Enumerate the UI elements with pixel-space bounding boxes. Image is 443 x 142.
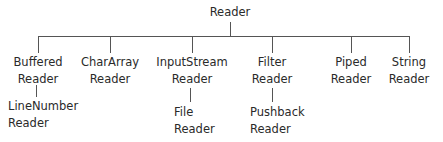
edge-inputstream: [192, 36, 193, 53]
root-stem: [230, 22, 231, 36]
node-label-line1: Piped: [331, 54, 372, 71]
node-label-line2: Reader: [81, 71, 139, 88]
node-label-line1: LineNumber: [8, 98, 78, 115]
node-filter-reader: Filter Reader: [252, 54, 293, 88]
edge-linenumber: [36, 85, 37, 97]
node-label-line1: Filter: [252, 54, 293, 71]
edge-file: [190, 88, 191, 102]
node-label-line2: Reader: [389, 71, 430, 88]
edge-chararray: [110, 36, 111, 53]
edge-piped: [351, 36, 352, 53]
node-label: Reader: [210, 4, 251, 21]
node-label-line1: CharArray: [81, 54, 139, 71]
node-label-line2: Reader: [331, 71, 372, 88]
node-label-line1: Buffered: [13, 54, 62, 71]
node-string-reader: String Reader: [389, 54, 430, 88]
node-inputstream-reader: InputStream Reader: [156, 54, 227, 88]
node-label-line2: Reader: [250, 121, 305, 138]
edge-buffered: [38, 36, 39, 53]
node-label-line2: Reader: [174, 121, 215, 138]
edge-pushback: [272, 88, 273, 102]
node-label-line2: Reader: [13, 71, 62, 88]
node-buffered-reader: Buffered Reader: [13, 54, 62, 88]
node-chararray-reader: CharArray Reader: [81, 54, 139, 88]
edge-filter: [272, 36, 273, 53]
node-label-line1: String: [389, 54, 430, 71]
node-label-line1: File: [174, 104, 215, 121]
node-reader: Reader: [210, 4, 251, 21]
node-file-reader: File Reader: [174, 104, 215, 138]
sibling-connector: [38, 36, 410, 37]
edge-string: [409, 36, 410, 53]
node-linenumber-reader: LineNumber Reader: [8, 98, 78, 132]
node-label-line2: Reader: [156, 71, 227, 88]
node-piped-reader: Piped Reader: [331, 54, 372, 88]
node-label-line1: Pushback: [250, 104, 305, 121]
node-label-line2: Reader: [252, 71, 293, 88]
node-label-line1: InputStream: [156, 54, 227, 71]
node-label-line2: Reader: [8, 115, 78, 132]
node-pushback-reader: Pushback Reader: [250, 104, 305, 138]
